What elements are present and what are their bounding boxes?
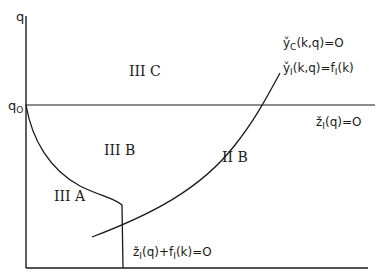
left-boundary-curve xyxy=(26,105,123,268)
region-IIIB: III B xyxy=(104,143,135,157)
yI-rest2: (k) xyxy=(337,61,353,75)
yI-curve-label: y̌I(k,q)=fI(k) xyxy=(283,62,354,77)
yC-rest: (k,q)=O xyxy=(296,36,343,50)
yI-rest: (k,q)=f xyxy=(293,61,335,75)
zI-curve-label: žI(q)=O xyxy=(316,116,361,131)
zIf-curve-label: žI(q)+fI(k)=O xyxy=(133,246,212,261)
region-IIIA: III A xyxy=(54,189,85,203)
yC-curve-label: y̌C(k,q)=O xyxy=(283,37,344,52)
y-axis-label: q xyxy=(16,10,24,23)
q0-label: qO xyxy=(8,99,23,115)
region-IIIC: III C xyxy=(129,64,161,78)
q0-sub: O xyxy=(16,105,23,115)
zI-rest: (q)=O xyxy=(325,115,361,129)
region-IIB: II B xyxy=(222,150,248,164)
zIf-rest2: (k)=O xyxy=(176,245,212,259)
zIf-rest: (q)+f xyxy=(142,245,173,259)
